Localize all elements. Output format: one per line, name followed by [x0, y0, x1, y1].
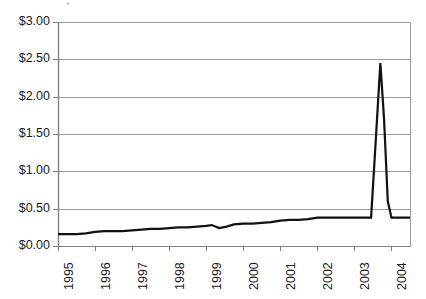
- x-axis-tick-label: 2003: [359, 262, 372, 290]
- x-axis-tick-label: 1996: [100, 262, 113, 290]
- y-axis-tick-label: $0.00: [19, 239, 50, 252]
- y-axis-tick-label: $1.50: [19, 127, 50, 140]
- chart-plot-area: [0, 0, 426, 299]
- y-axis-tick-label: $1.00: [19, 164, 50, 177]
- gridlines: [58, 23, 410, 247]
- line-chart: $0.00$0.50$1.00$1.50$2.00$2.50$3.00 1995…: [0, 0, 426, 299]
- y-axis-tick-label: $2.00: [19, 90, 50, 103]
- x-axis-tick-label: 1998: [174, 262, 187, 290]
- x-axis-tick-label: 1999: [211, 262, 224, 290]
- data-series-group: [58, 63, 410, 234]
- x-axis-tick-label: 2001: [285, 262, 298, 290]
- x-axis-tick-label: 2000: [248, 262, 261, 290]
- y-axis-tick-label: $0.50: [19, 202, 50, 215]
- x-axis-tick-label: 2004: [396, 262, 409, 290]
- y-axis-tick-label: $3.00: [19, 15, 50, 28]
- y-axis-ticks: [53, 23, 58, 247]
- x-axis-tick-label: 1997: [137, 262, 150, 290]
- x-axis-tick-label: 1995: [63, 262, 76, 290]
- y-axis-tick-label: $2.50: [19, 52, 50, 65]
- x-axis-tick-label: 2002: [322, 262, 335, 290]
- series-line: [58, 63, 410, 234]
